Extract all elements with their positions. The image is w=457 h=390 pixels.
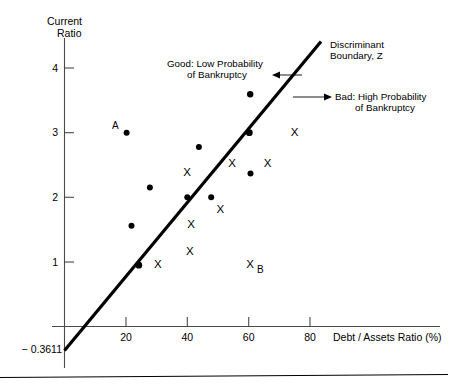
point-label-b: B [257,264,264,275]
data-point-dot [124,130,130,136]
x-series-group: X X X X X X X X X [154,126,299,271]
axes-group [52,38,440,368]
y-tick-label-2: 2 [52,191,58,203]
x-tick-label-20: 20 [120,331,132,343]
good-annotation-line2: of Bankruptcy [187,69,247,80]
data-point-x: X [228,157,236,169]
point-label-a: A [112,120,119,131]
left-arrowhead-icon [272,72,280,79]
data-point-x: X [187,218,195,230]
bottom-divider-group [0,375,448,378]
good-annotation-line1: Good: Low Probability [167,58,263,69]
dot-series-group [124,91,254,269]
y-axis-title-line2: Ratio [57,27,82,39]
scatter-plot-svg: 4 3 2 1 20 40 60 80 Current Ratio Debt /… [0,0,457,390]
discriminant-boundary-line [65,42,322,351]
boundary-label-line1: Discriminant [330,39,384,50]
x-axis-title: Debt / Assets Ratio (%) [333,331,442,343]
data-point-x: X [186,245,194,257]
data-point-dot [248,170,254,176]
y-tick-label-3: 3 [52,126,58,138]
data-point-dot [247,91,253,97]
y-tick-label-1: 1 [52,256,58,268]
data-point-dot [196,144,202,150]
x-axis-tick-labels: 20 40 60 80 [120,331,316,343]
y-intercept-label: − 0.3611 [22,343,63,355]
y-axis-ticks [65,68,75,262]
data-point-dot [129,223,135,229]
data-point-dot [208,194,214,200]
y-axis-title-line1: Current [47,15,82,27]
bad-annotation-group: Bad: High Probability of Bankruptcy [293,91,427,113]
bad-annotation-line2: of Bankruptcy [355,102,415,113]
data-point-dot [184,194,190,200]
bottom-divider [0,375,448,378]
bad-annotation-line1: Bad: High Probability [335,91,427,102]
data-point-dot [147,185,153,191]
boundary-label-line2: Boundary, Z [330,50,383,61]
x-axis-ticks [126,317,310,327]
x-tick-label-60: 60 [243,331,255,343]
data-point-dot [135,262,142,269]
data-point-x: X [291,126,299,138]
data-point-x: X [183,166,191,178]
data-point-x: X [154,258,162,270]
data-point-x: X [217,203,225,215]
discriminant-analysis-chart: 4 3 2 1 20 40 60 80 Current Ratio Debt /… [0,0,457,390]
data-point-x: X [246,258,254,270]
x-tick-label-40: 40 [181,331,193,343]
data-point-dot [246,129,253,136]
x-tick-label-80: 80 [304,331,316,343]
data-point-x: X [264,157,272,169]
good-annotation-group: Good: Low Probability of Bankruptcy [167,58,302,80]
y-axis-tick-labels: 4 3 2 1 [52,62,58,268]
y-tick-label-4: 4 [52,62,58,74]
right-arrowhead-icon [324,94,332,101]
boundary-label-group: Discriminant Boundary, Z [330,39,384,61]
